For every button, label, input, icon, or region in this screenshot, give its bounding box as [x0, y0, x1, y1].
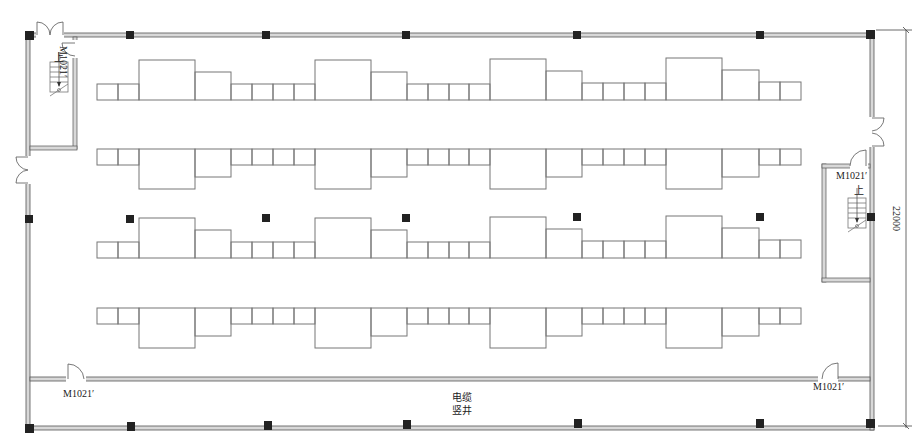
column	[402, 31, 410, 39]
column	[25, 215, 33, 223]
column	[264, 421, 272, 430]
door-label-bottom-left: M1021′	[63, 389, 94, 399]
column	[403, 420, 411, 429]
door-label-right-stair: M1021′	[836, 171, 867, 181]
cable-shaft-label: 电缆 竖井	[452, 391, 472, 417]
dimension-label-height: 22000	[891, 206, 901, 231]
cable-shaft-label-line1: 电缆	[452, 391, 472, 404]
column	[756, 31, 764, 39]
column	[126, 215, 134, 223]
column	[262, 31, 270, 39]
column	[126, 31, 134, 39]
equipment-row-4	[97, 308, 801, 348]
stair-up-label-left: 上	[54, 51, 64, 64]
column	[25, 424, 34, 433]
column	[756, 213, 764, 221]
column	[127, 422, 135, 431]
column	[573, 31, 581, 39]
columns	[25, 30, 875, 433]
doors	[16, 22, 884, 379]
column	[866, 419, 875, 428]
door-label-bottom-right: M1021′	[813, 382, 844, 392]
floor-plan	[0, 0, 921, 445]
column	[262, 214, 270, 222]
column	[25, 31, 34, 40]
column	[573, 213, 581, 221]
cable-shaft-label-line2: 竖井	[452, 404, 472, 417]
stair-up-label-right: 上	[854, 184, 864, 197]
column	[402, 214, 410, 222]
column	[756, 419, 764, 428]
equipment-row-1	[97, 58, 801, 100]
cable-shaft-partition	[30, 375, 870, 383]
equipment-row-3	[97, 216, 801, 258]
outer-walls	[24, 31, 876, 430]
column	[866, 30, 875, 39]
column	[574, 419, 582, 428]
equipment-row-2	[97, 149, 801, 189]
column	[867, 213, 875, 221]
